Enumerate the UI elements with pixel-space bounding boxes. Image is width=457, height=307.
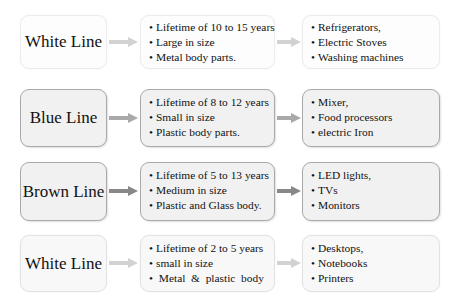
property-item: •Plastic and Glass body. [149,198,274,213]
property-item: •Lifetime of 2 to 5 years [149,241,274,256]
arrow-icon [277,113,301,123]
examples-box: •LED lights, •TVs •Monitors [302,162,440,221]
arrow-icon [277,258,301,268]
properties-box: •Lifetime of 2 to 5 years •small in size… [140,235,275,292]
arrow-icon [109,113,139,123]
property-item: •Small in size [149,110,274,125]
property-item: •Lifetime of 10 to 15 years [149,20,274,35]
example-item: •Desktops, [311,241,439,256]
arrow-icon [277,37,301,47]
properties-box: •Lifetime of 8 to 12 years •Small in siz… [140,89,275,147]
example-item: •Printers [311,271,439,286]
example-item: •electric Iron [311,125,439,140]
property-item: •small in size [149,256,274,271]
category-box: Blue Line [20,89,107,147]
property-item: •Metal body parts. [149,50,274,65]
category-label: White Line [25,254,102,274]
property-item: •Large in size [149,35,274,50]
example-item: •TVs [311,183,439,198]
row-brown-line: Brown Line •Lifetime of 5 to 13 years •M… [0,162,457,221]
row-white-line-small: White Line •Lifetime of 2 to 5 years •sm… [0,235,457,292]
row-blue-line: Blue Line •Lifetime of 8 to 12 years •Sm… [0,89,457,147]
example-item: •Electric Stoves [311,35,439,50]
category-label: White Line [25,32,102,52]
properties-box: •Lifetime of 10 to 15 years •Large in si… [140,15,275,69]
arrow-icon [109,258,139,268]
arrow-icon [109,37,139,47]
category-label: Brown Line [23,182,105,202]
category-box: White Line [20,235,107,292]
example-item: •Washing machines [311,50,439,65]
property-item: •Lifetime of 5 to 13 years [149,168,274,183]
property-item: •Medium in size [149,183,274,198]
examples-box: •Desktops, •Notebooks •Printers [302,235,440,292]
category-box: Brown Line [20,162,107,221]
example-item: •Monitors [311,198,439,213]
examples-box: •Mixer, •Food processors •electric Iron [302,89,440,147]
category-box: White Line [20,15,107,69]
property-item: • Metal & plastic body [149,271,274,286]
example-item: •Mixer, [311,95,439,110]
arrow-icon [109,186,139,196]
properties-box: •Lifetime of 5 to 13 years •Medium in si… [140,162,275,221]
property-item: •Lifetime of 8 to 12 years [149,95,274,110]
arrow-icon [277,186,301,196]
property-item: •Plastic body parts. [149,125,274,140]
examples-box: •Refrigerators, •Electric Stoves •Washin… [302,15,440,69]
row-white-line-large: White Line •Lifetime of 10 to 15 years •… [0,15,457,69]
category-label: Blue Line [30,108,98,128]
example-item: •LED lights, [311,168,439,183]
example-item: •Food processors [311,110,439,125]
example-item: •Refrigerators, [311,20,439,35]
example-item: •Notebooks [311,256,439,271]
